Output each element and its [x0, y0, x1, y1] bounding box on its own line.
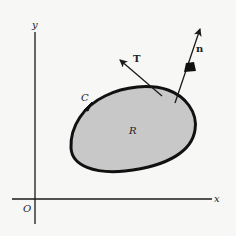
region-label: R [128, 125, 137, 136]
normal-label: n [196, 43, 204, 54]
tangent-label: T [133, 53, 141, 64]
right-angle-marker-icon [184, 62, 196, 72]
x-axis-label: x [214, 193, 220, 204]
origin-label: O [23, 203, 31, 214]
y-axis-label: y [31, 19, 38, 30]
curve-label: C [81, 92, 89, 103]
diagram-canvas: y x O C R T n [0, 0, 236, 236]
